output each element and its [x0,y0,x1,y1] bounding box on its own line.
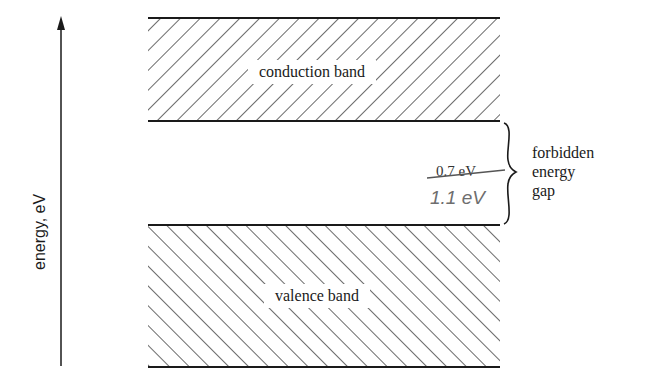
gap-annotation: 0.7 eV 1.1 eV forbidden energy gap [427,123,598,224]
valence-band: valence band [148,225,500,368]
arrowhead-icon [57,16,65,30]
gap-label: forbidden energy gap [532,144,598,200]
gap-label-line-2: energy [532,163,575,181]
valence-band-label: valence band [275,287,359,304]
curly-brace-icon [504,123,516,224]
gap-label-line-3: gap [532,182,555,200]
gap-value-handwritten: 1.1 eV [430,187,487,208]
band-diagram: energy, eV conduction band valence band … [0,0,653,387]
conduction-band: conduction band [148,18,500,121]
gap-label-line-1: forbidden [532,144,594,161]
conduction-band-label: conduction band [259,63,365,80]
energy-axis-label: energy, eV [31,193,48,270]
energy-axis: energy, eV [31,16,65,366]
